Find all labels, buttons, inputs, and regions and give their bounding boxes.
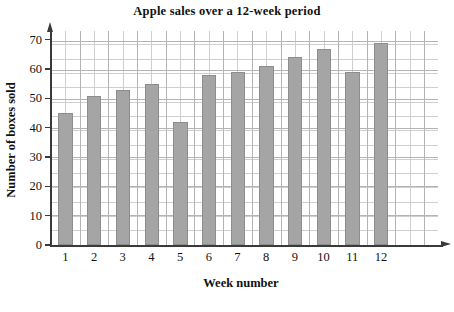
bar[interactable] <box>317 49 331 245</box>
x-tick-label: 4 <box>137 250 166 264</box>
y-tick-label: 20 <box>8 180 42 192</box>
x-tick-label: 5 <box>166 250 195 264</box>
chart-title: Apple sales over a 12-week period <box>0 4 454 19</box>
bar[interactable] <box>87 96 101 246</box>
y-tick-mark <box>45 39 51 40</box>
y-tick-label: 40 <box>8 122 42 134</box>
y-tick-mark <box>45 215 51 216</box>
x-tick-label: 1 <box>51 250 80 264</box>
x-tick-label: 8 <box>252 250 281 264</box>
x-axis-arrow-icon <box>441 241 451 247</box>
x-axis-title: Week number <box>51 276 431 291</box>
y-tick-mark <box>45 156 51 157</box>
bar-chart-figure: Apple sales over a 12-week period Number… <box>0 0 454 312</box>
y-tick-mark <box>45 98 51 99</box>
bar[interactable] <box>145 84 159 245</box>
y-tick-label: 50 <box>8 92 42 104</box>
x-tick-label: 9 <box>281 250 310 264</box>
bar[interactable] <box>231 72 245 245</box>
x-tick-label: 3 <box>108 250 137 264</box>
bar[interactable] <box>116 90 130 245</box>
x-tick-label: 2 <box>80 250 109 264</box>
y-tick-label: 60 <box>8 63 42 75</box>
y-axis-line <box>50 31 52 246</box>
y-tick-label: 0 <box>8 239 42 251</box>
x-axis-line <box>50 245 443 247</box>
y-tick-mark <box>45 244 51 245</box>
bar[interactable] <box>374 43 388 245</box>
bar[interactable] <box>173 122 187 245</box>
y-tick-mark <box>45 186 51 187</box>
bar[interactable] <box>259 66 273 245</box>
y-tick-mark <box>45 127 51 128</box>
x-tick-label: 7 <box>223 250 252 264</box>
y-tick-mark <box>45 68 51 69</box>
y-tick-label: 70 <box>8 34 42 46</box>
x-tick-label: 6 <box>194 250 223 264</box>
bar[interactable] <box>202 75 216 245</box>
bar[interactable] <box>58 113 72 245</box>
bar[interactable] <box>345 72 359 245</box>
y-axis-arrow-icon <box>47 22 53 32</box>
x-tick-label: 12 <box>367 250 396 264</box>
x-tick-label: 10 <box>309 250 338 264</box>
bar[interactable] <box>288 57 302 245</box>
y-tick-label: 10 <box>8 210 42 222</box>
x-tick-label: 11 <box>338 250 367 264</box>
plot-area <box>51 31 438 245</box>
y-tick-label: 30 <box>8 151 42 163</box>
